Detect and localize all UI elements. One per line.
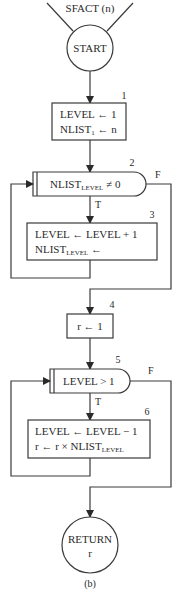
box6-line1: LEVEL ← LEVEL − 1 — [35, 425, 138, 437]
step-number: 1 — [122, 90, 127, 101]
true-label: T — [95, 199, 101, 210]
decision-2: 2 NLISTLEVEL ≠ 0 F T — [33, 157, 161, 210]
return-label: RETURN — [68, 533, 112, 545]
step-number: 5 — [116, 354, 121, 365]
false-label: F — [155, 169, 161, 180]
process-box-4: 4 r ← 1 — [67, 299, 115, 338]
step-number: 6 — [145, 406, 150, 417]
step-number: 3 — [150, 209, 155, 220]
process-box-6: 6 LEVEL ← LEVEL − 1 r ← r × NLISTLEVEL — [28, 406, 150, 458]
dec5-condition: LEVEL > 1 — [63, 375, 115, 387]
box3-line1: LEVEL ← LEVEL + 1 — [35, 228, 138, 240]
true-label: T — [95, 396, 101, 407]
process-box-3: 3 LEVEL ← LEVEL + 1 NLISTLEVEL ← — [27, 209, 157, 260]
start-label: START — [73, 42, 107, 54]
start-node: START — [67, 25, 113, 71]
return-node: RETURN r — [62, 517, 118, 573]
entry-label: SFACT (n) — [66, 2, 115, 15]
box1-line1: LEVEL ← 1 — [60, 108, 116, 120]
process-box-1: 1 LEVEL ← 1 NLIST1 ← n — [52, 90, 127, 140]
box1-line2: NLIST1 ← n — [60, 123, 117, 137]
step-number: 2 — [130, 157, 135, 168]
figure-caption: (b) — [84, 578, 96, 590]
return-value: r — [88, 547, 92, 559]
false-label: F — [148, 365, 154, 376]
box4-line1: r ← 1 — [77, 320, 103, 332]
step-number: 4 — [110, 299, 115, 310]
